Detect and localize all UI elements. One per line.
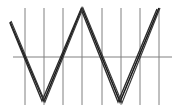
plot-canvas bbox=[0, 0, 181, 112]
waveform-plot bbox=[0, 0, 181, 112]
